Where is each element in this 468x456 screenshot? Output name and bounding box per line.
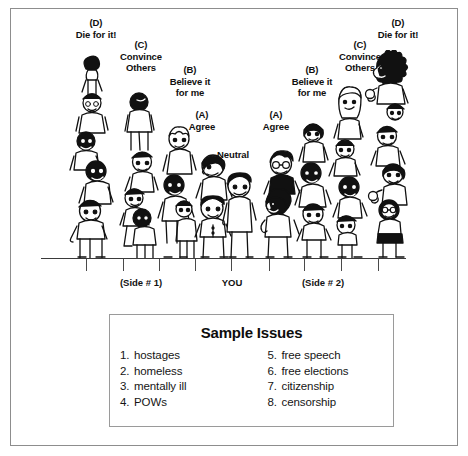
issue-5-number: 5. [268,348,282,364]
axis-label-side-1: (Side # 1) [120,277,162,288]
issue-6-number: 6. [268,364,282,380]
label-right-die-for-it: (D) Die for it! [363,17,433,40]
label-right-c-level: (C) [323,39,397,51]
label-left-b-level: (B) [154,64,226,76]
issue-6-text: free elections [282,365,349,377]
sample-issues-box: Sample Issues 1.hostages 2.homeless 3.me… [109,314,394,427]
issue-3-number: 3. [120,379,134,395]
axis-tick-9 [378,259,379,271]
sample-issues-column-right: 5.free speech 6.free elections 7.citizen… [236,348,384,410]
issue-item-2: 2.homeless [120,364,236,380]
issue-item-1: 1.hostages [120,348,236,364]
issue-4-number: 4. [120,395,134,411]
issue-item-5: 5.free speech [268,348,384,364]
issue-1-text: hostages [134,349,180,361]
axis-tick-6 [269,259,270,271]
axis-label-side-2: (Side # 2) [302,277,344,288]
issue-item-7: 7.citizenship [268,379,384,395]
axis-tick-1 [86,259,87,271]
sample-issues-column-left: 1.hostages 2.homeless 3.mentally ill 4.P… [120,348,236,410]
issue-5-text: free speech [282,349,341,361]
axis-label-you: YOU [222,277,243,288]
issue-4-text: POWs [134,396,167,408]
issue-7-number: 7. [268,379,282,395]
issue-item-4: 4.POWs [120,395,236,411]
issue-item-8: 8.censorship [268,395,384,411]
axis-tick-8 [341,259,342,271]
crowd-scene: (D) Die for it! (C) Convince Others (B) … [11,9,459,269]
people-stack-neutral [219,170,259,258]
sample-issues-lists: 1.hostages 2.homeless 3.mentally ill 4.P… [110,348,393,410]
people-stack-right-d [363,50,417,258]
label-right-d-level: (D) [363,17,433,29]
issue-1-number: 1. [120,348,134,364]
issue-2-number: 2. [120,364,134,380]
label-right-d-text: Die for it! [363,29,433,41]
issue-8-number: 8. [268,395,282,411]
axis-tick-5 [231,259,232,271]
label-left-d-level: (D) [61,17,131,29]
issue-2-text: homeless [134,365,182,377]
axis-tick-3 [159,259,160,271]
opinion-axis-line [41,258,406,259]
issue-8-text: censorship [282,396,337,408]
axis-tick-2 [123,259,124,271]
label-left-a-level: (A) [174,109,230,121]
issue-7-text: citizenship [282,380,335,392]
sample-issues-title: Sample Issues [110,324,393,341]
issue-item-3: 3.mentally ill [120,379,236,395]
axis-tick-7 [304,259,305,271]
issue-item-6: 6.free elections [268,364,384,380]
label-left-die-for-it: (D) Die for it! [61,17,131,40]
people-stack-left-d [66,53,118,258]
issue-3-text: mentally ill [134,380,186,392]
axis-tick-4 [195,259,196,271]
label-left-c-level: (C) [104,39,178,51]
figure-outer-frame: (D) Die for it! (C) Convince Others (B) … [10,8,458,446]
